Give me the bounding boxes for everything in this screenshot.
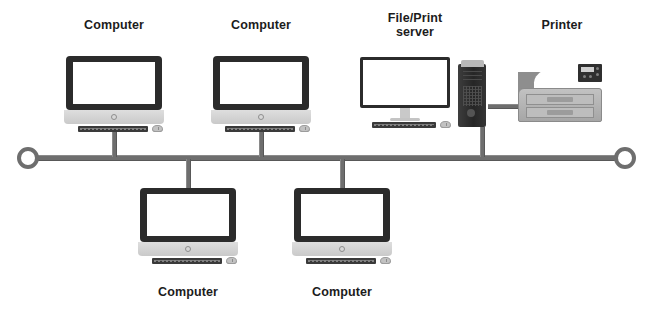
drop-line-computer-bottom-right xyxy=(340,159,345,189)
power-indicator-icon xyxy=(258,114,264,120)
tower-power-button[interactable] xyxy=(467,109,475,117)
mouse-icon xyxy=(299,125,310,132)
monitor-stand-base xyxy=(390,118,420,121)
device-computer-bottom-right[interactable] xyxy=(290,188,394,264)
device-computer-top-left[interactable] xyxy=(62,56,166,132)
monitor-screen xyxy=(147,194,229,236)
device-server-tower[interactable] xyxy=(458,59,488,127)
printer-lcd-display xyxy=(581,67,594,72)
label-computer-top-middle: Computer xyxy=(201,18,321,32)
printer-panel-button-three[interactable] xyxy=(583,75,586,78)
power-indicator-icon xyxy=(111,114,117,120)
device-printer[interactable] xyxy=(516,60,606,122)
keyboard-icon xyxy=(372,122,436,128)
bus-terminator-left-icon xyxy=(17,147,39,169)
network-topology-diagram: Computer Computer File/Print server Prin… xyxy=(0,0,649,315)
keyboard-icon xyxy=(152,258,222,264)
printer-panel-button-two[interactable] xyxy=(596,73,599,76)
label-computer-top-left: Computer xyxy=(54,18,174,32)
mouse-icon xyxy=(380,257,391,264)
monitor-screen xyxy=(73,62,155,104)
printer-tray-lower-handle xyxy=(547,110,573,115)
bus-terminator-right-icon xyxy=(614,147,636,169)
bus-backbone-line xyxy=(28,155,625,161)
tower-top-panel xyxy=(461,60,484,67)
mouse-icon xyxy=(440,121,451,128)
monitor-screen xyxy=(301,194,383,236)
keyboard-icon xyxy=(225,126,295,132)
device-computer-bottom-left[interactable] xyxy=(136,188,240,264)
printer-panel-button-four[interactable] xyxy=(589,75,592,78)
keyboard-icon xyxy=(78,126,148,132)
label-computer-bottom-right: Computer xyxy=(282,285,402,299)
drop-line-file-print-server xyxy=(480,127,485,157)
keyboard-icon xyxy=(306,258,376,264)
label-file-print-server: File/Print server xyxy=(365,11,465,39)
mouse-icon xyxy=(152,125,163,132)
drop-line-computer-top-left xyxy=(112,131,117,157)
monitor-screen xyxy=(220,62,302,104)
printer-tray-upper-handle xyxy=(547,97,573,102)
power-indicator-icon xyxy=(339,246,345,252)
monitor-bezel xyxy=(360,57,450,108)
tower-drive-bays xyxy=(463,71,482,83)
tower-vent-grid xyxy=(463,86,482,106)
mouse-icon xyxy=(226,257,237,264)
power-indicator-icon xyxy=(185,246,191,252)
printer-panel-button-one[interactable] xyxy=(596,67,599,70)
label-computer-bottom-left: Computer xyxy=(128,285,248,299)
drop-line-computer-bottom-left xyxy=(186,159,191,189)
monitor-stand-neck xyxy=(400,108,410,118)
device-computer-top-middle[interactable] xyxy=(209,56,313,132)
device-file-print-server-monitor[interactable] xyxy=(360,57,460,129)
label-printer: Printer xyxy=(512,18,612,32)
drop-line-computer-top-middle xyxy=(259,131,264,157)
